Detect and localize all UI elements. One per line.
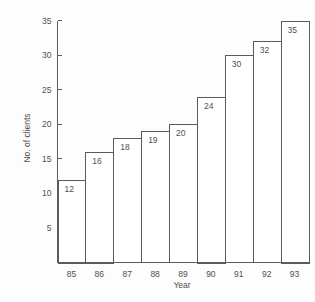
x-tick-label: 89 [178,269,188,279]
x-tick-label: 87 [122,269,132,279]
x-axis-title: Year [173,280,190,290]
bar [198,98,226,264]
y-tick-label: 25 [42,85,52,95]
x-axis-tick-labels: 858687888990919293 [67,269,300,279]
x-tick-label: 86 [95,269,105,279]
bar-value-label: 20 [176,128,186,138]
chart-canvas: 5101520253035 121618192024303235 8586878… [0,0,315,302]
bar [282,22,310,264]
bar [170,125,198,263]
y-axis-title: No. of clients [22,113,32,162]
bar [114,139,142,263]
bar-value-label: 35 [288,25,298,35]
x-tick-label: 85 [67,269,77,279]
y-tick-label: 35 [42,16,52,26]
bar-value-label: 12 [64,184,74,194]
bar-value-label: 19 [148,135,158,145]
x-tick-label: 91 [234,269,244,279]
x-tick-label: 88 [150,269,160,279]
x-tick-label: 90 [206,269,216,279]
x-tick-label: 92 [262,269,272,279]
bar [254,42,282,263]
bar [226,56,254,263]
bar-value-label: 18 [120,142,130,152]
bar-value-label: 30 [232,59,242,69]
y-tick-label: 20 [42,119,52,129]
bars-group: 121618192024303235 [59,22,310,264]
bar-value-label: 16 [92,156,102,166]
y-tick-label: 15 [42,154,52,164]
x-tick-label: 93 [290,269,300,279]
bar [86,153,114,264]
y-tick-label: 30 [42,50,52,60]
y-tick-label: 10 [42,188,52,198]
bar-value-label: 32 [260,45,270,55]
bar-chart-figure: 5101520253035 121618192024303235 8586878… [0,0,315,302]
y-tick-label: 5 [47,223,52,233]
bar [142,132,170,263]
bar-value-label: 24 [204,101,214,111]
